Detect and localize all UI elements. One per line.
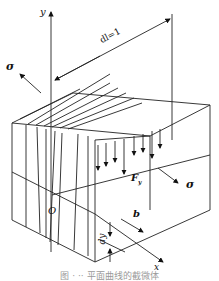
sigma-right-label: σ	[186, 178, 194, 191]
figure-caption: 图 · ·· 平面曲线的截微体	[0, 271, 219, 281]
element-diagram	[0, 0, 219, 281]
y-axis-label: y	[40, 6, 46, 17]
sigma-left-label: σ	[6, 60, 14, 73]
height-label: dy	[97, 234, 107, 245]
width-label: b	[133, 208, 140, 219]
sigma-left-arrow	[20, 74, 41, 93]
force-label: Fy	[131, 172, 142, 185]
origin-label: O	[48, 205, 56, 216]
